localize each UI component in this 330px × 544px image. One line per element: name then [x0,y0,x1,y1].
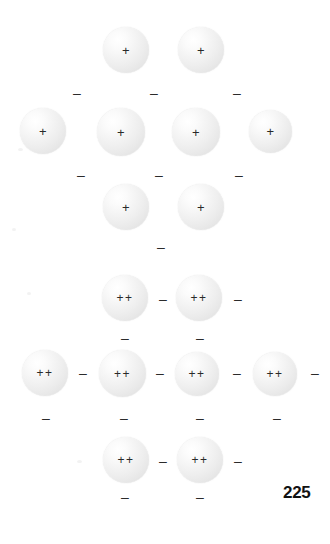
ion-sphere: + [178,184,224,230]
electron-minus-sign: – [233,366,241,380]
ion-charge-label: ++ [117,454,134,466]
electron-minus-sign: – [235,168,243,182]
electron-minus-sign: – [196,331,204,345]
paper-speck [27,292,31,295]
paper-speck [12,228,16,231]
ion-charge-label: + [197,201,205,214]
ion-charge-label: + [39,125,47,138]
ion-charge-label: ++ [36,367,53,379]
electron-minus-sign: – [157,240,165,254]
ion-sphere: ++ [177,437,223,483]
ion-charge-label: ++ [114,368,131,380]
ion-charge-label: + [122,44,130,57]
electron-minus-sign: – [311,366,319,380]
ion-charge-label: ++ [191,454,208,466]
ion-sphere: + [97,108,145,156]
ion-charge-label: + [192,126,200,139]
ion-sphere: ++ [175,352,219,396]
ion-charge-label: + [117,126,125,139]
ion-charge-label: ++ [190,292,207,304]
ion-charge-label: + [122,201,130,214]
electron-minus-sign: – [155,168,163,182]
ion-sphere: + [249,110,292,153]
ion-sphere: ++ [253,352,297,396]
ion-sphere: + [103,27,149,73]
electron-minus-sign: – [159,454,167,468]
electron-minus-sign: – [234,292,242,306]
electron-minus-sign: – [233,86,241,100]
paper-speck [18,148,23,151]
electron-minus-sign: – [234,454,242,468]
electron-minus-sign: – [156,366,164,380]
ion-sphere: + [178,27,224,73]
ion-sphere: + [103,184,149,230]
page-number: 225 [283,484,310,501]
ion-charge-label: ++ [188,368,205,380]
electron-minus-sign: – [42,411,50,425]
ion-sphere: ++ [103,437,149,483]
ion-sphere: ++ [102,275,148,321]
ion-sphere: ++ [99,350,146,397]
ion-charge-label: + [266,125,274,138]
ion-charge-label: ++ [116,292,133,304]
ion-sphere: + [172,108,220,156]
electron-minus-sign: – [79,366,87,380]
electron-minus-sign: – [73,86,81,100]
electron-minus-sign: – [121,331,129,345]
electron-minus-sign: – [77,168,85,182]
electron-minus-sign: – [273,411,281,425]
figure-canvas: ++++++++–––––––++++++++++++++++–––––––––… [0,0,330,544]
electron-minus-sign: – [121,490,129,504]
ion-sphere: + [20,108,66,154]
electron-minus-sign: – [150,86,158,100]
ion-charge-label: ++ [266,368,283,380]
electron-minus-sign: – [159,292,167,306]
electron-minus-sign: – [196,490,204,504]
electron-minus-sign: – [120,411,128,425]
ion-charge-label: + [197,44,205,57]
paper-speck [77,460,82,463]
electron-minus-sign: – [196,411,204,425]
ion-sphere: ++ [22,350,68,396]
ion-sphere: ++ [176,275,222,321]
